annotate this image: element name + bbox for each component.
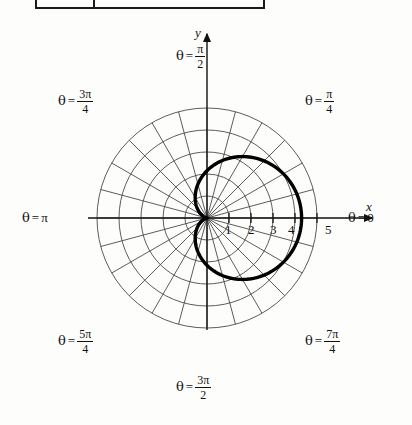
theta-3pi-2-denominator: 2: [198, 388, 208, 401]
theta-3pi-2-numerator: 3π: [195, 374, 211, 388]
theta-pi-value: π: [41, 210, 48, 225]
angle-label-theta-0: θ=0: [348, 211, 374, 224]
grid-spoke-105deg: [179, 112, 207, 218]
grid-spoke-30deg: [207, 163, 302, 218]
grid-spoke-60deg: [207, 123, 262, 218]
grid-spoke-45deg: [207, 140, 285, 218]
y-axis-label: y: [195, 25, 201, 41]
theta-pi-2-numerator: π: [195, 43, 205, 57]
theta-symbol: θ: [305, 93, 313, 108]
theta-3pi-4-denominator: 4: [80, 102, 90, 115]
grid-spoke-165deg: [101, 190, 207, 218]
theta-symbol: θ: [58, 333, 66, 348]
angle-label-theta-pi-4: θ=π4: [305, 89, 334, 116]
theta-symbol: θ: [176, 379, 184, 394]
angle-label-theta-3pi-4: θ=3π4: [58, 89, 93, 116]
grid-spoke-150deg: [112, 163, 207, 218]
grid-spoke-210deg: [112, 218, 207, 273]
angle-label-theta-5pi-4: θ=5π4: [58, 329, 93, 356]
theta-7pi-4-denominator: 4: [327, 342, 337, 355]
angle-label-theta-3pi-2: θ=3π2: [176, 375, 211, 402]
x-tick-label-3: 3: [270, 222, 277, 238]
x-tick-label-1: 1: [225, 222, 232, 238]
cartesian-axes: [88, 34, 372, 330]
theta-symbol: θ: [58, 93, 66, 108]
theta-symbol: θ: [22, 210, 30, 225]
angle-label-theta-pi-2: θ=π2: [176, 44, 205, 71]
theta-symbol: θ: [305, 333, 313, 348]
figure-canvas: 1 2 3 4 5 y x θ=π2 θ=π4 θ=3π4 θ=π θ=0 θ=…: [0, 0, 412, 425]
angle-label-theta-pi: θ=π: [22, 211, 48, 224]
theta-5pi-4-denominator: 4: [80, 342, 90, 355]
theta-symbol: θ: [176, 48, 184, 63]
theta-0-value: 0: [367, 210, 374, 225]
theta-symbol: θ: [348, 210, 356, 225]
theta-3pi-4-numerator: 3π: [77, 88, 93, 102]
theta-5pi-4-numerator: 5π: [77, 328, 93, 342]
grid-spoke-240deg: [152, 218, 207, 313]
theta-pi-4-numerator: π: [324, 88, 334, 102]
theta-pi-2-denominator: 2: [195, 57, 205, 70]
theta-7pi-4-numerator: 7π: [324, 328, 340, 342]
x-tick-label-2: 2: [248, 222, 255, 238]
grid-spoke-255deg: [179, 218, 207, 324]
grid-spoke-120deg: [152, 123, 207, 218]
grid-spoke-195deg: [101, 218, 207, 246]
x-tick-label-4: 4: [288, 222, 295, 238]
x-tick-label-5: 5: [325, 222, 332, 238]
angle-label-theta-7pi-4: θ=7π4: [305, 329, 340, 356]
theta-pi-4-denominator: 4: [324, 102, 334, 115]
